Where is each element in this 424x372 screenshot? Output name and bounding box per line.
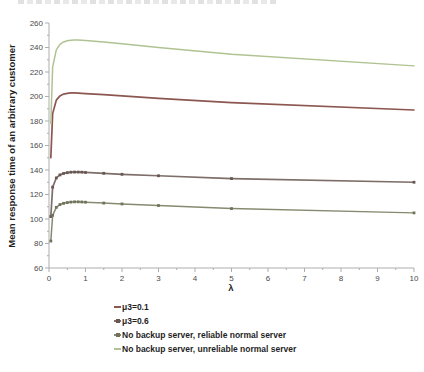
series-marker: [230, 177, 233, 180]
series-marker: [55, 177, 58, 180]
series-marker: [70, 171, 73, 174]
legend-dash-icon: [114, 320, 121, 322]
series-marker: [73, 200, 76, 203]
y-tick-label: 100: [30, 215, 44, 224]
chart-plot: 6080100120140160180200220240260012345678…: [0, 0, 424, 296]
x-tick-label: 3: [156, 274, 161, 283]
series-marker: [51, 186, 54, 189]
y-tick-label: 140: [30, 166, 44, 175]
legend-dash-icon: [114, 348, 121, 350]
legend-item: No backup server, reliable normal server: [114, 328, 296, 342]
series-marker: [84, 171, 87, 174]
legend-label: μ3=0.1: [122, 302, 149, 312]
y-tick-label: 160: [30, 141, 44, 150]
legend-label: No backup server, reliable normal server: [122, 330, 286, 340]
series-line: [51, 93, 414, 158]
x-tick-label: 4: [193, 274, 198, 283]
series-marker: [121, 203, 124, 206]
figure-canvas: { "colors": { "axis": "#adadad", "tick_l…: [0, 0, 424, 372]
series-marker: [84, 201, 87, 204]
y-tick-label: 120: [30, 190, 44, 199]
series-marker: [121, 173, 124, 176]
series-marker: [77, 171, 80, 174]
legend-item: μ3=0.6: [114, 314, 296, 328]
x-tick-label: 10: [410, 274, 419, 283]
y-tick-label: 180: [30, 117, 44, 126]
y-tick-label: 60: [34, 264, 43, 273]
series-marker: [49, 240, 52, 243]
legend-marker-icon: [116, 333, 120, 337]
y-tick-label: 220: [30, 68, 44, 77]
x-tick-label: 6: [266, 274, 271, 283]
series-marker: [77, 200, 80, 203]
legend-label: μ3=0.6: [122, 316, 149, 326]
chart-legend: μ3=0.1μ3=0.6No backup server, reliable n…: [114, 300, 296, 356]
legend-marker-icon: [116, 319, 120, 323]
series-line: [51, 40, 414, 124]
tick-labels: 6080100120140160180200220240260012345678…: [30, 19, 419, 284]
series-marker: [80, 201, 83, 204]
series-marker: [62, 202, 65, 205]
x-axis-label: λ: [228, 282, 234, 293]
y-tick-label: 260: [30, 19, 44, 28]
legend-dash-icon: [114, 306, 121, 308]
y-tick-label: 80: [34, 239, 43, 248]
y-tick-label: 240: [30, 43, 44, 52]
x-tick-label: 9: [375, 274, 380, 283]
series-marker: [66, 171, 69, 174]
series-marker: [230, 207, 233, 210]
series-marker: [59, 174, 62, 177]
series-marker: [80, 171, 83, 174]
series-marker: [157, 204, 160, 207]
series-marker: [55, 206, 58, 209]
series-marker: [59, 203, 62, 206]
series-lines: [49, 40, 415, 243]
series-marker: [157, 174, 160, 177]
series-marker: [413, 181, 416, 184]
axes: [45, 23, 414, 272]
legend-item: No backup server, unreliable normal serv…: [114, 342, 296, 356]
x-tick-label: 8: [339, 274, 344, 283]
legend-item: μ3=0.1: [114, 300, 296, 314]
x-tick-label: 7: [302, 274, 307, 283]
series-marker: [66, 201, 69, 204]
series-marker: [102, 172, 105, 175]
x-tick-label: 2: [120, 274, 125, 283]
series-marker: [413, 211, 416, 214]
legend-dash-icon: [114, 334, 121, 336]
y-tick-label: 200: [30, 92, 44, 101]
series-marker: [102, 202, 105, 205]
x-tick-label: 1: [83, 274, 88, 283]
legend-label: No backup server, unreliable normal serv…: [122, 344, 296, 354]
series-marker: [51, 214, 54, 217]
y-axis-label: Mean response time of an arbitrary custo…: [6, 44, 17, 248]
series-marker: [62, 172, 65, 175]
series-marker: [73, 171, 76, 174]
x-tick-label: 0: [47, 274, 52, 283]
series-marker: [70, 201, 73, 204]
